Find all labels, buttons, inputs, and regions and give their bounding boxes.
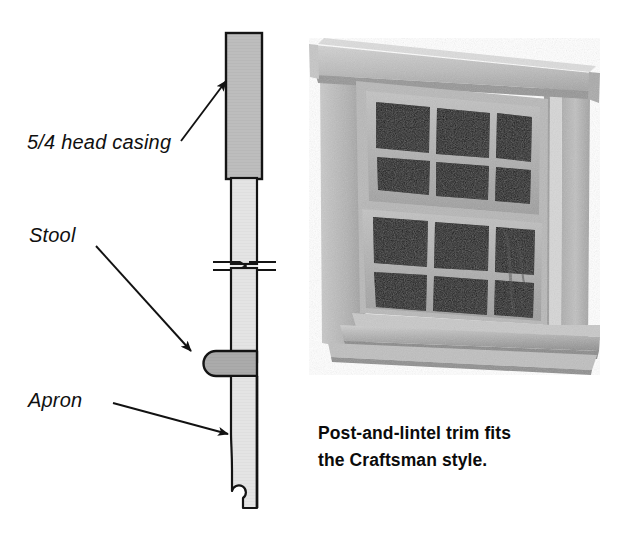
caption-line-1: Post-and-lintel trim fits (318, 420, 618, 447)
stool-part (203, 351, 257, 376)
arrow-head-casing (181, 81, 226, 141)
photo-lintel-left-return (309, 44, 319, 79)
head-casing-block (226, 33, 262, 179)
arrow-stool (96, 246, 191, 351)
apron-block (231, 376, 257, 508)
figure-root: 5/4 head casing Stool Apron (0, 0, 639, 539)
caption-line-2: the Craftsman style. (318, 447, 618, 474)
photo-lite (433, 276, 488, 315)
photo-lite (434, 222, 489, 271)
jamb-casing-lower (231, 268, 257, 362)
photo-lite (495, 227, 535, 275)
label-stool: Stool (29, 225, 76, 245)
jamb-casing-upper (231, 178, 257, 264)
window-photo (300, 25, 625, 400)
photo-lite (436, 162, 489, 200)
photo-lite (376, 102, 430, 153)
photo-lintel-right-return (588, 72, 600, 103)
photo-lite (374, 272, 427, 311)
photo-right-casing (561, 87, 590, 343)
casing-upper-part (231, 178, 257, 264)
arrow-apron (113, 403, 228, 434)
photo-lite (495, 167, 531, 204)
label-apron: Apron (28, 390, 82, 410)
photo-caption: Post-and-lintel trim fits the Craftsman … (318, 420, 618, 473)
head-casing-part (226, 33, 262, 179)
photo-lite (373, 217, 428, 267)
photo-lite (436, 108, 490, 158)
photo-jamb-reveal (549, 85, 562, 337)
casing-lower-part (231, 268, 257, 362)
label-head-casing: 5/4 head casing (27, 132, 171, 152)
window-photo-canvas (300, 25, 625, 400)
photo-lite (377, 157, 430, 195)
photo-lite (496, 113, 532, 162)
stool-block (203, 351, 257, 376)
apron-part (231, 376, 257, 508)
